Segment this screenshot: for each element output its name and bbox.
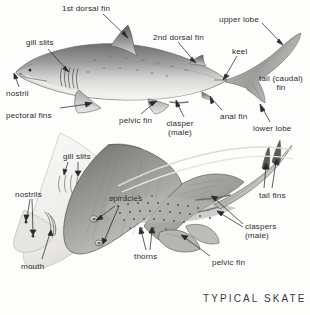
- shark-eye: [29, 69, 32, 72]
- leader-anal-fin: [210, 96, 222, 110]
- label-claspers-male: claspers (male): [245, 222, 276, 241]
- label-thorns: thorns: [134, 252, 157, 261]
- leader-first-dorsal-fin: [103, 14, 128, 38]
- leader-keel: [223, 56, 237, 80]
- skate-illustration: [14, 133, 293, 269]
- leader-claspers-b: [217, 211, 243, 227]
- label-anal-fin: anal fin: [220, 112, 247, 121]
- shark-nostril-mark: [19, 73, 22, 75]
- label-gill-slits-shark: gill slits: [26, 38, 54, 47]
- shark-clasper: [170, 102, 188, 103]
- label-pectoral-fins: pectoral fins: [6, 111, 52, 120]
- shark-pelvic-fin: [148, 99, 169, 114]
- anatomy-plate: 1st dorsal fin gill slits nostril pector…: [0, 0, 310, 315]
- leader-lower-lobe: [260, 104, 270, 122]
- plate-title: TYPICAL SKATE: [203, 293, 306, 304]
- label-spiracles: spiracles: [109, 194, 142, 203]
- label-second-dorsal-fin: 2nd dorsal fin: [153, 33, 204, 42]
- label-pelvic-fin-skate: pelvic fin: [212, 258, 245, 267]
- label-keel: keel: [232, 47, 248, 56]
- leader-tail-fins-b: [272, 159, 279, 188]
- label-upper-lobe: upper lobe: [219, 15, 259, 24]
- label-gill-slits-skate: gill slits: [63, 152, 91, 161]
- label-nostrils: nostrils: [15, 190, 42, 199]
- label-clasper-male: clasper (male): [155, 119, 205, 138]
- label-pelvic-fin-shark: pelvic fin: [119, 116, 152, 125]
- label-tail-fins: tail fins: [259, 191, 286, 200]
- label-tail-caudal-fin: tail (caudal) fin: [252, 74, 310, 93]
- leader-thorns-a: [139, 227, 146, 250]
- label-first-dorsal-fin: 1st dorsal fin: [62, 4, 110, 13]
- label-nostril: nostril: [6, 89, 29, 98]
- leader-thorns-b: [149, 227, 155, 250]
- label-mouth: mouth: [21, 262, 44, 271]
- leader-upper-lobe: [262, 23, 283, 45]
- label-lower-lobe: lower lobe: [253, 124, 292, 133]
